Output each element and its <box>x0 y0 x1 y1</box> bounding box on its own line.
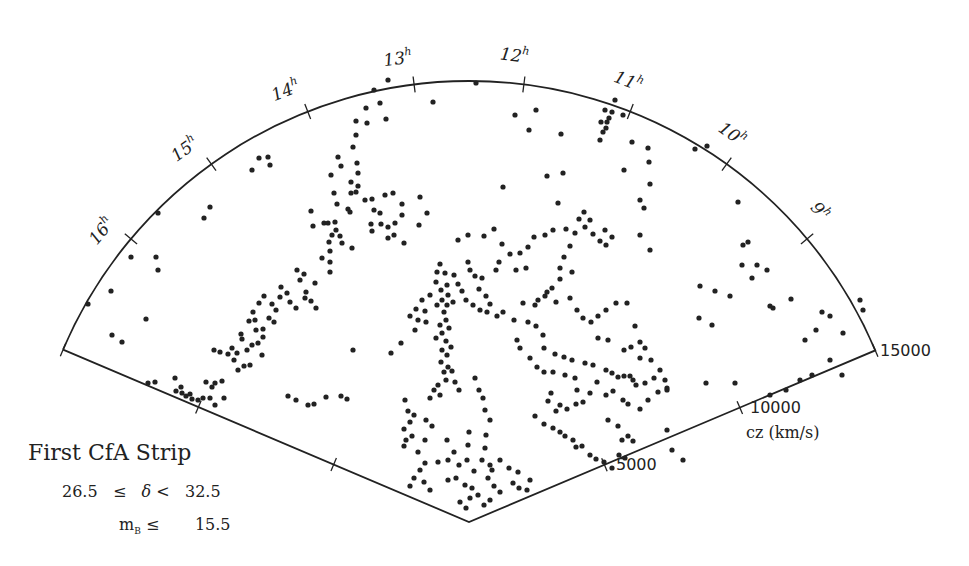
galaxy-point <box>619 437 624 442</box>
galaxy-point <box>696 315 701 320</box>
galaxy-point <box>622 455 627 460</box>
galaxy-point <box>423 417 428 422</box>
galaxy-point <box>241 363 246 368</box>
galaxy-point <box>531 234 536 239</box>
galaxy-point <box>570 437 575 442</box>
galaxy-point <box>557 265 562 270</box>
galaxy-point <box>540 332 545 337</box>
galaxy-point <box>326 239 331 244</box>
galaxy-point <box>449 368 454 373</box>
galaxy-point <box>562 433 567 438</box>
galaxy-point <box>625 401 630 406</box>
galaxy-point <box>550 227 555 232</box>
galaxy-point <box>201 215 206 220</box>
galaxy-point <box>433 335 438 340</box>
galaxy-point <box>332 219 337 224</box>
galaxy-point <box>456 387 461 392</box>
ra-tick-label: 12h <box>499 42 530 67</box>
galaxy-point <box>481 233 486 238</box>
galaxy-point <box>217 349 222 354</box>
galaxy-point <box>573 444 578 449</box>
galaxy-point <box>239 336 244 341</box>
galaxy-point <box>535 297 540 302</box>
galaxy-point <box>484 309 489 314</box>
cz-axis-label: cz (km/s) <box>746 423 819 442</box>
galaxy-point <box>311 401 316 406</box>
galaxy-point <box>754 262 759 267</box>
galaxy-point <box>472 273 477 278</box>
galaxy-point <box>451 449 456 454</box>
galaxy-point <box>435 459 440 464</box>
galaxy-point <box>260 334 265 339</box>
galaxy-point <box>337 233 342 238</box>
galaxy-point <box>143 316 148 321</box>
galaxy-point <box>594 379 599 384</box>
galaxy-point <box>445 477 450 482</box>
galaxy-point <box>603 392 608 397</box>
galaxy-point <box>445 292 450 297</box>
galaxy-point <box>598 119 603 124</box>
dec-low: 26.5 <box>62 482 98 501</box>
galaxy-point <box>269 301 274 306</box>
galaxy-point <box>569 269 574 274</box>
galaxy-point <box>444 302 449 307</box>
galaxy-point <box>368 221 373 226</box>
galaxy-point <box>487 417 492 422</box>
galaxy-point <box>497 489 502 494</box>
galaxy-point <box>293 397 298 402</box>
galaxy-point <box>553 299 558 304</box>
galaxy-point <box>427 395 432 400</box>
galaxy-point <box>483 432 488 437</box>
galaxy-point <box>487 301 492 306</box>
galaxy-point <box>579 443 584 448</box>
galaxy-point <box>620 397 625 402</box>
galaxy-point <box>398 340 403 345</box>
galaxy-point <box>350 347 355 352</box>
galaxy-point <box>499 241 504 246</box>
galaxy-point <box>261 293 266 298</box>
galaxy-point <box>333 227 338 232</box>
galaxy-point <box>613 300 618 305</box>
galaxy-point <box>515 469 520 474</box>
galaxy-point <box>582 224 587 229</box>
galaxy-point <box>572 230 577 235</box>
galaxy-point <box>704 143 709 148</box>
chart-title: First CfA Strip <box>28 440 191 465</box>
galaxy-point <box>407 419 412 424</box>
galaxy-point <box>860 307 865 312</box>
galaxy-point <box>462 482 467 487</box>
galaxy-point <box>496 259 501 264</box>
galaxy-point <box>564 406 569 411</box>
galaxy-point <box>350 144 355 149</box>
mag-le-symbol: ≤ <box>146 515 159 534</box>
galaxy-point <box>355 183 360 188</box>
galaxy-point <box>119 339 124 344</box>
galaxy-point <box>172 375 177 380</box>
galaxy-point <box>648 357 653 362</box>
galaxy-point <box>497 457 502 462</box>
galaxy-point <box>697 283 702 288</box>
galaxy-point <box>669 447 674 452</box>
galaxy-point <box>403 437 408 442</box>
galaxy-point <box>532 413 537 418</box>
galaxy-point <box>809 372 814 377</box>
galaxy-point <box>293 305 298 310</box>
galaxy-point <box>587 217 592 222</box>
galaxy-point <box>178 384 183 389</box>
galaxy-point <box>443 338 448 343</box>
galaxy-point <box>479 275 484 280</box>
galaxy-point <box>355 170 360 175</box>
galaxy-point <box>457 499 462 504</box>
galaxy-point <box>109 332 114 337</box>
galaxy-point <box>415 317 420 322</box>
galaxy-point <box>604 119 609 124</box>
galaxy-point <box>319 255 324 260</box>
galaxy-point <box>651 375 656 380</box>
galaxy-point <box>797 377 802 382</box>
galaxy-point <box>415 449 420 454</box>
galaxy-point <box>369 228 374 233</box>
galaxy-point <box>446 325 451 330</box>
declination-range: 26.5 ≤ δ < 32.5 <box>62 482 221 501</box>
galaxy-point <box>246 318 251 323</box>
galaxy-point <box>525 244 530 249</box>
